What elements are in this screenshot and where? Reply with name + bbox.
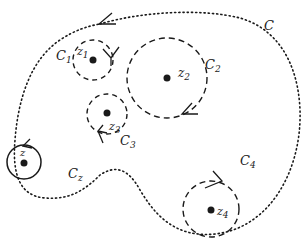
cz-label: Cz xyxy=(68,166,83,183)
c1-arrow-icon xyxy=(103,47,119,66)
circle-c3: z3 C3 xyxy=(87,94,136,150)
contour-c-label: C xyxy=(264,18,274,33)
z2-label: z2 xyxy=(177,66,190,82)
point-z4 xyxy=(208,207,215,214)
z3-label: z3 xyxy=(108,120,121,135)
point-z3 xyxy=(104,110,111,117)
z1-label: z1 xyxy=(76,45,89,60)
c2-arrow-icon xyxy=(182,103,198,114)
c4-arrow-icon xyxy=(205,171,222,188)
z4-label: z4 xyxy=(216,205,229,220)
c2-label: C2 xyxy=(205,57,221,74)
circle-cz: z Cz xyxy=(7,139,83,183)
point-z xyxy=(21,160,28,167)
circle-c4: z4 C4 xyxy=(183,153,256,237)
c1-label: C1 xyxy=(56,48,72,65)
point-z1 xyxy=(90,57,97,64)
outer-contour-c: C xyxy=(14,12,300,234)
c3-label: C3 xyxy=(120,133,136,150)
c3-arrow-icon xyxy=(98,125,107,143)
z-label: z xyxy=(19,147,26,158)
c4-label: C4 xyxy=(240,153,256,170)
contour-diagram: C C1 z1 z2 C2 z3 C3 z Cz z4 C4 xyxy=(0,0,308,243)
point-z2 xyxy=(164,75,171,82)
circle-c1: C1 z1 xyxy=(56,40,119,80)
circle-c2: z2 C2 xyxy=(127,38,221,118)
